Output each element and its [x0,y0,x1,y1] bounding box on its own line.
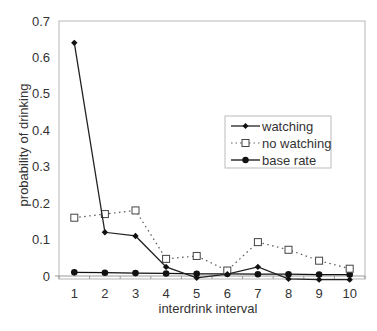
data-point [71,40,77,46]
legend-label: watching [261,119,313,134]
legend-label: no watching [262,136,331,151]
y-axis-title: probability of drinking [16,84,31,207]
legend-label: base rate [262,153,316,168]
data-point [255,264,261,270]
y-axis: 00.10.20.30.40.50.60.7 [32,14,50,284]
data-point [254,239,261,246]
x-tick-label: 3 [132,286,139,301]
data-point [71,269,78,276]
x-axis-title: interdrink interval [159,301,258,316]
data-point [316,257,323,264]
square-marker-icon [242,140,249,147]
data-point [132,270,139,277]
y-tick-label: 0.2 [32,196,50,211]
x-tick-label: 4 [162,286,169,301]
data-point [255,271,262,278]
x-tick-label: 6 [224,286,231,301]
x-tick-label: 5 [193,286,200,301]
data-point [316,276,322,282]
line-chart: 00.10.20.30.40.50.60.7 12345678910 proba… [0,0,377,331]
x-tick-label: 10 [342,286,356,301]
data-point [285,276,291,282]
circle-marker-icon [242,157,248,163]
x-tick-label: 8 [285,286,292,301]
legend: watching no watching base rate [225,116,331,168]
data-point [346,265,353,272]
y-tick-label: 0.6 [32,50,50,65]
x-tick-label: 2 [101,286,108,301]
data-point [102,269,109,276]
chart-canvas: 00.10.20.30.40.50.60.7 12345678910 proba… [0,0,377,331]
y-tick-label: 0.4 [32,123,50,138]
data-point [193,252,200,259]
x-tick-label: 1 [71,286,78,301]
data-point [163,270,170,277]
data-point [71,214,78,221]
data-point [347,276,353,282]
data-point [163,255,170,262]
x-tick-label: 7 [254,286,261,301]
y-tick-label: 0.7 [32,14,50,29]
x-tick-label: 9 [315,286,322,301]
y-tick-label: 0.3 [32,159,50,174]
y-tick-label: 0 [43,269,50,284]
y-tick-label: 0.1 [32,232,50,247]
data-point [132,207,139,214]
data-point [102,229,108,235]
y-tick-label: 0.5 [32,86,50,101]
data-point [285,246,292,253]
series-no-watching [71,207,353,274]
